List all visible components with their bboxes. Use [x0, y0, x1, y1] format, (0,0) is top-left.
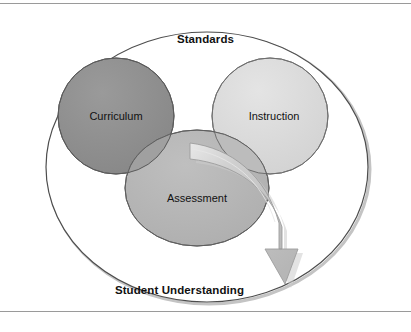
venn-diagram-figure: Standards Curriculum Instruction Assessm… [0, 0, 411, 332]
instruction-label: Instruction [222, 110, 326, 122]
venn-diagram-canvas [0, 0, 411, 332]
standards-label: Standards [0, 33, 411, 45]
assessment-label: Assessment [141, 192, 253, 204]
curriculum-label: Curriculum [60, 110, 172, 122]
horizontal-rule-bottom [0, 311, 411, 312]
student-understanding-label: Student Understanding [0, 284, 411, 296]
